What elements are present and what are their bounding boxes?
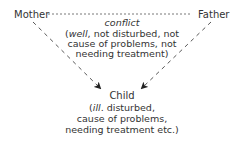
child-desc-line-3: needing treatment etc.) [0,125,244,136]
ill-word: ill [93,102,101,113]
child-desc-line-1: (ill. disturbed, [0,103,244,114]
child-desc-line-1-rest: . disturbed, [101,102,155,113]
conflict-word: conflict [105,17,140,28]
child-label: Child [0,91,244,102]
conflict-line-3: needing treatment) [0,49,244,60]
child-desc-line-2: cause of problems, [0,114,244,125]
conflict-title: conflict [0,18,244,29]
